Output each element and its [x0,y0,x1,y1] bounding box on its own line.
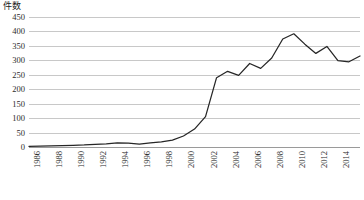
y-tick-label-100: 100 [0,114,25,123]
x-tick-label-2008: 2008 [276,151,285,168]
x-tick-label-1998: 1998 [165,151,174,168]
x-tick-label-1988: 1988 [55,151,64,168]
x-tick-label-2004: 2004 [232,151,241,168]
x-tick-label-1994: 1994 [121,151,130,168]
x-tick-label-2002: 2002 [210,151,219,168]
x-tick-label-2006: 2006 [254,151,263,168]
y-tick-label-300: 300 [0,56,25,65]
x-tick-label-2014: 2014 [342,151,351,168]
y-tick-label-250: 250 [0,71,25,80]
x-tick-label-1990: 1990 [77,151,86,168]
y-axis-title: 件数 [3,1,21,11]
x-tick-label-1992: 1992 [99,151,108,168]
x-tick-label-1986: 1986 [33,151,42,168]
y-tick-label-0: 0 [0,143,25,152]
chart-container: 件数 050100150200250300350400450 198619881… [0,0,364,200]
gridline-0 [29,147,360,148]
y-tick-label-400: 400 [0,27,25,36]
x-tick-label-2012: 2012 [320,151,329,168]
plot-area: 050100150200250300350400450 198619881990… [29,17,360,147]
y-tick-label-350: 350 [0,42,25,51]
y-tick-label-450: 450 [0,13,25,22]
y-tick-label-150: 150 [0,99,25,108]
y-tick-label-50: 50 [0,128,25,137]
x-tick-label-2010: 2010 [298,151,307,168]
series-line-kensuu [29,34,360,147]
y-tick-label-200: 200 [0,85,25,94]
series-line-group [29,17,360,147]
x-tick-label-2000: 2000 [187,151,196,168]
x-tick-label-1996: 1996 [143,151,152,168]
